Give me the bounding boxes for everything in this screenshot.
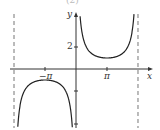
x-tick-label-neg-pi: −π xyxy=(39,72,52,81)
x-tick-label-pi: π xyxy=(104,72,110,81)
chart-canvas xyxy=(0,0,160,130)
y-axis-label: y xyxy=(67,10,72,19)
y-tick-label: 2 xyxy=(67,42,73,51)
x-axis-label: x xyxy=(147,72,152,81)
